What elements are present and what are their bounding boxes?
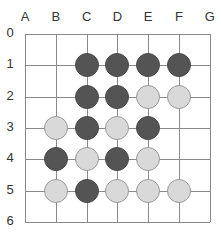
game-board: ABCDEFG0123456 — [0, 0, 221, 237]
column-label-e: E — [144, 9, 153, 24]
row-label-6: 6 — [6, 212, 13, 227]
black-stone-c5[interactable] — [75, 179, 99, 203]
row-label-1: 1 — [6, 56, 13, 71]
column-label-c: C — [82, 9, 91, 24]
black-stone-c2[interactable] — [75, 85, 99, 109]
white-stone-d5[interactable] — [105, 179, 129, 203]
black-stone-d1[interactable] — [105, 53, 129, 77]
row-label-2: 2 — [6, 87, 13, 102]
grid-line-vertical — [210, 34, 211, 222]
white-stone-c4[interactable] — [75, 147, 99, 171]
black-stone-c1[interactable] — [75, 53, 99, 77]
grid-line-horizontal — [25, 222, 210, 223]
black-stone-d4[interactable] — [105, 147, 129, 171]
white-stone-e4[interactable] — [136, 147, 160, 171]
column-label-g: G — [205, 9, 215, 24]
black-stone-c3[interactable] — [75, 116, 99, 140]
row-label-0: 0 — [6, 25, 13, 40]
column-label-b: B — [51, 9, 60, 24]
column-label-a: A — [21, 9, 30, 24]
black-stone-e3[interactable] — [136, 116, 160, 140]
white-stone-e2[interactable] — [136, 85, 160, 109]
white-stone-e5[interactable] — [136, 179, 160, 203]
column-label-f: F — [175, 9, 183, 24]
black-stone-d2[interactable] — [105, 85, 129, 109]
black-stone-e1[interactable] — [136, 53, 160, 77]
white-stone-d3[interactable] — [105, 116, 129, 140]
white-stone-f2[interactable] — [167, 85, 191, 109]
row-label-3: 3 — [6, 118, 13, 133]
white-stone-f5[interactable] — [167, 179, 191, 203]
grid-line-horizontal — [25, 34, 210, 35]
row-label-4: 4 — [6, 150, 13, 165]
white-stone-b3[interactable] — [44, 116, 68, 140]
column-label-d: D — [113, 9, 122, 24]
white-stone-b5[interactable] — [44, 179, 68, 203]
row-label-5: 5 — [6, 181, 13, 196]
black-stone-b4[interactable] — [44, 147, 68, 171]
black-stone-f1[interactable] — [167, 53, 191, 77]
